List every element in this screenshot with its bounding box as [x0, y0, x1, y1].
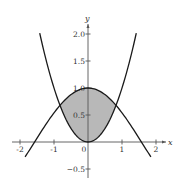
y-tick-label: 0.5 [73, 111, 85, 120]
y-axis-arrow-icon [87, 24, 90, 28]
chart-plot-area: -2-10122.01.51.00.5−0.5 x y [0, 0, 179, 185]
x-tick-label: -2 [16, 145, 24, 154]
x-tick-label: -1 [50, 145, 57, 154]
y-tick-label: 1.5 [73, 57, 85, 66]
y-tick-label: 2.0 [73, 30, 85, 39]
y-axis-label: y [84, 14, 90, 23]
y-tick-label: −0.5 [67, 165, 85, 174]
x-tick-label: 2 [154, 145, 159, 154]
x-axis-label: x [168, 138, 173, 147]
x-axis-arrow-icon [162, 141, 166, 144]
x-tick-label: 0 [82, 145, 87, 154]
x-tick-label: 1 [120, 145, 125, 154]
